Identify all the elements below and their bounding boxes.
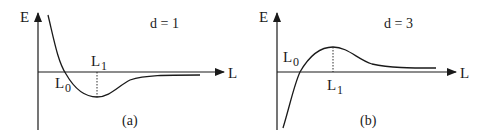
- svg-text:L: L: [283, 49, 292, 65]
- svg-text:1: 1: [337, 83, 343, 97]
- caption-a: (a): [122, 113, 138, 129]
- svg-text:0: 0: [65, 81, 71, 95]
- svg-text:1: 1: [101, 59, 107, 73]
- caption-b: (b): [360, 113, 377, 129]
- x-axis-label-a: L: [228, 65, 237, 81]
- l1-label-b: L 1: [327, 77, 343, 97]
- panel-a: E L d = 1 L 1 L 0 (a): [20, 9, 237, 130]
- diagram-canvas: E L d = 1 L 1 L 0 (a) E L d = 3 L 0 L 1 …: [0, 0, 493, 139]
- svg-text:0: 0: [293, 55, 299, 69]
- l0-label-b: L 0: [283, 49, 299, 69]
- svg-text:L: L: [91, 53, 100, 69]
- svg-text:L: L: [327, 77, 336, 93]
- svg-text:L: L: [55, 75, 64, 91]
- x-axis-label-b: L: [460, 65, 469, 81]
- l1-label-a: L 1: [91, 53, 107, 73]
- y-axis-label-a: E: [20, 9, 29, 25]
- panel-b: E L d = 3 L 0 L 1 (b): [259, 9, 469, 130]
- param-label-b: d = 3: [384, 16, 413, 31]
- param-label-a: d = 1: [150, 16, 179, 31]
- y-axis-label-b: E: [259, 9, 268, 25]
